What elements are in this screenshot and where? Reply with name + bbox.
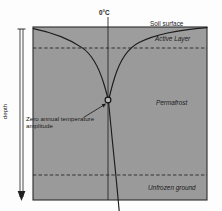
ground-fill-region: [33, 27, 207, 200]
active-layer-label: Active Layer: [155, 35, 190, 42]
soil-surface-label: Soil surface: [150, 20, 183, 27]
zero-annual-amplitude-marker: [105, 97, 111, 103]
zero-annual-amplitude-label: Zero annual temperature amplitude: [26, 116, 106, 130]
diagram-canvas: [0, 0, 222, 211]
depth-axis-label: depth: [2, 104, 9, 119]
zero-celsius-label: 0°C: [99, 9, 110, 16]
unfrozen-ground-label: Unfrozen ground: [148, 184, 196, 191]
permafrost-temperature-diagram: 0°C Soil surface Active Layer Permafrost…: [0, 0, 222, 211]
depth-axis-arrowhead-icon: [18, 191, 26, 201]
permafrost-label: Permafrost: [156, 99, 187, 106]
